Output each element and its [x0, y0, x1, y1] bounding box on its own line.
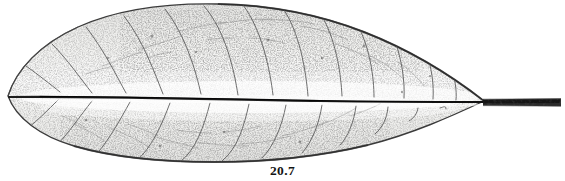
lamina-halftone-texture [0, 0, 565, 181]
figure-plate: 20.7 [0, 0, 565, 181]
leaf-petiole [483, 99, 561, 107]
leaf-illustration [0, 0, 565, 181]
leaf-lamina [0, 0, 565, 181]
figure-caption: 20.7 [0, 163, 565, 179]
